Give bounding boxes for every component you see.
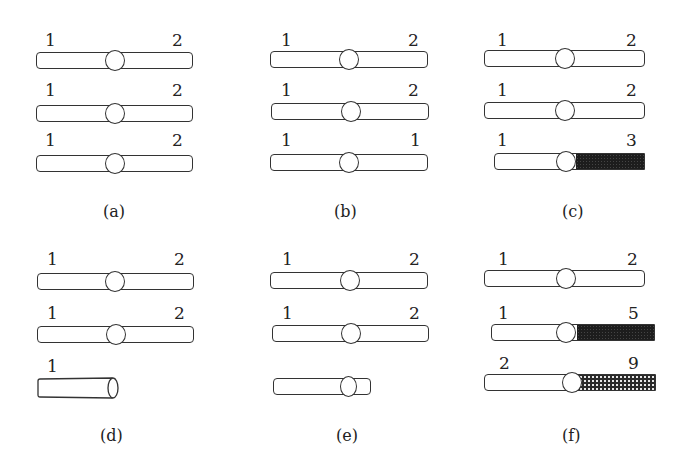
broken-chromosome-fragment (37, 377, 121, 401)
translocated-segment-checkered (579, 375, 655, 390)
arm-label-right: 1 (410, 132, 421, 149)
panel-caption: (b) (334, 204, 357, 220)
panel-caption: (c) (562, 204, 583, 220)
arm-label-left: 1 (282, 305, 293, 322)
centromere-icon (555, 100, 575, 121)
centromere-icon (556, 322, 576, 343)
arm-label-left: 1 (498, 305, 509, 322)
arm-label-right: 5 (628, 305, 639, 322)
centromere-icon (105, 153, 125, 174)
arm-label-left: 1 (497, 132, 508, 149)
arm-label-left: 1 (47, 251, 58, 268)
arm-label-right: 2 (174, 305, 185, 322)
centromere-icon (106, 324, 126, 345)
arm-label-right: 9 (628, 355, 639, 372)
centromere-icon (556, 151, 576, 172)
centromere-icon (340, 270, 360, 291)
arm-label-left: 1 (282, 251, 293, 268)
arm-label-right: 2 (409, 305, 420, 322)
centromere-icon (105, 50, 125, 71)
arm-label-left: 1 (45, 32, 56, 49)
arm-label-right: 2 (626, 32, 637, 49)
arm-label-left: 1 (281, 32, 292, 49)
panel-caption: (a) (103, 204, 125, 220)
centromere-icon (340, 376, 357, 397)
arm-label-left: 1 (47, 358, 58, 375)
centromere-icon (339, 152, 359, 173)
arm-label-left: 2 (499, 355, 510, 372)
panel-caption: (d) (100, 428, 123, 444)
translocated-segment-dark (576, 154, 644, 169)
centromere-icon (555, 48, 575, 69)
arm-label-left: 1 (47, 305, 58, 322)
arm-label-right: 2 (172, 82, 183, 99)
arm-label-left: 1 (497, 82, 508, 99)
panel-caption: (f) (562, 428, 580, 444)
centromere-icon (341, 101, 361, 122)
arm-label-left: 1 (45, 132, 56, 149)
arm-label-left: 1 (45, 82, 56, 99)
arm-label-left: 1 (497, 32, 508, 49)
centromere-icon (339, 49, 359, 70)
arm-label-left: 1 (281, 82, 292, 99)
centromere-icon (105, 103, 125, 124)
arm-label-right: 2 (409, 251, 420, 268)
arm-label-left: 1 (281, 132, 292, 149)
arm-label-right: 2 (172, 32, 183, 49)
arm-label-right: 2 (626, 82, 637, 99)
arm-label-right: 2 (174, 251, 185, 268)
arm-label-left: 1 (498, 251, 509, 268)
panel-caption: (e) (336, 428, 358, 444)
centromere-icon (556, 268, 576, 289)
arm-label-right: 2 (408, 32, 419, 49)
arm-label-right: 2 (172, 132, 183, 149)
centromere-icon (105, 271, 125, 292)
arm-label-right: 2 (627, 251, 638, 268)
centromere-icon (562, 372, 582, 393)
centromere-icon (341, 323, 361, 344)
arm-label-right: 2 (408, 82, 419, 99)
arm-label-right: 3 (626, 132, 637, 149)
translocated-segment-dark (577, 325, 654, 340)
